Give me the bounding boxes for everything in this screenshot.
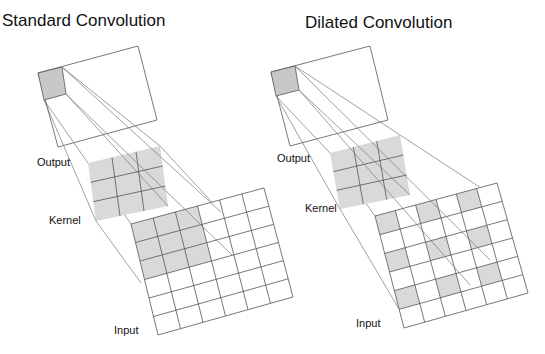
label-output: Output bbox=[37, 156, 70, 168]
output-map bbox=[38, 46, 157, 147]
label-output: Output bbox=[277, 152, 310, 164]
label-input: Input bbox=[114, 324, 138, 336]
dilated-convolution-panel: Dilated Convolution Output Kernel Input bbox=[271, 13, 528, 329]
input-grid bbox=[375, 183, 528, 328]
panel-title: Dilated Convolution bbox=[305, 13, 452, 32]
label-kernel: Kernel bbox=[305, 202, 337, 214]
label-input: Input bbox=[356, 317, 380, 329]
output-map bbox=[271, 46, 388, 146]
kernel-grid bbox=[330, 135, 410, 209]
label-kernel: Kernel bbox=[49, 214, 81, 226]
kernel-grid bbox=[88, 146, 168, 221]
panel-title: Standard Convolution bbox=[2, 11, 166, 30]
output-cell bbox=[38, 67, 66, 100]
input-grid bbox=[131, 188, 293, 335]
standard-convolution-panel: Standard Convolution Output Kernel bbox=[2, 11, 293, 336]
convolution-diagram: Standard Convolution Output Kernel bbox=[0, 0, 545, 354]
